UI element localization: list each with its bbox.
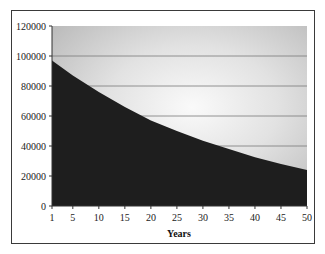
x-tick-label: 20 (146, 212, 156, 223)
x-axis-title: Years (167, 228, 191, 239)
x-tick-label: 35 (224, 212, 234, 223)
x-tick-label: 25 (172, 212, 182, 223)
x-axis-ticks: 15101520253035404550 (50, 206, 313, 223)
x-tick-label: 50 (302, 212, 312, 223)
y-tick-label: 40000 (21, 141, 46, 152)
x-tick-label: 30 (198, 212, 208, 223)
x-tick-label: 5 (70, 212, 75, 223)
x-tick-label: 1 (50, 212, 55, 223)
x-tick-label: 45 (276, 212, 286, 223)
y-tick-label: 80000 (21, 81, 46, 92)
x-tick-label: 15 (120, 212, 130, 223)
x-tick-label: 10 (94, 212, 104, 223)
y-tick-label: 100000 (16, 51, 46, 62)
y-axis-ticks: 020000400006000080000100000120000 (16, 21, 52, 212)
y-tick-label: 120000 (16, 21, 46, 32)
area-chart: 020000400006000080000100000120000 151015… (0, 0, 325, 254)
x-tick-label: 40 (250, 212, 260, 223)
y-tick-label: 0 (41, 201, 46, 212)
y-tick-label: 60000 (21, 111, 46, 122)
y-tick-label: 20000 (21, 171, 46, 182)
